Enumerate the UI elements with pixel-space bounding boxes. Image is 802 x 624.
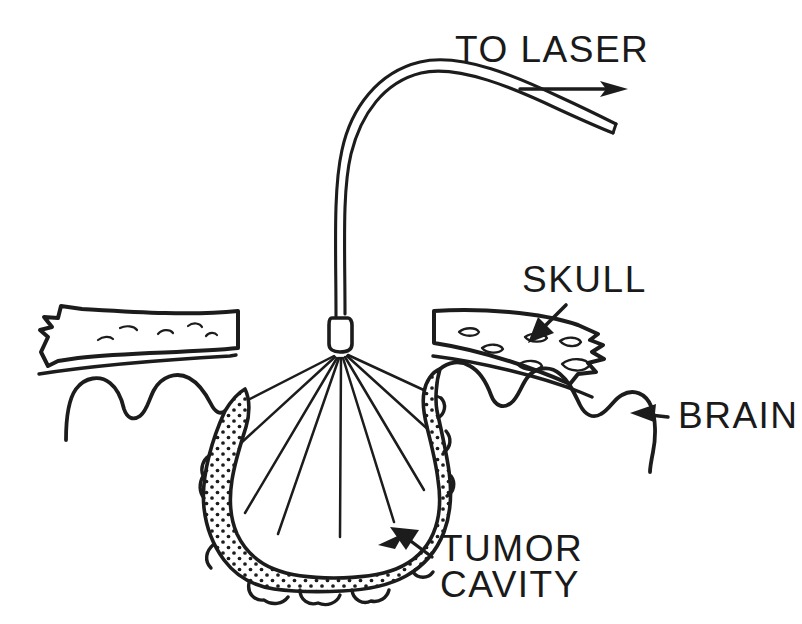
brain-label: BRAIN [678, 395, 799, 436]
to-laser-label: TO LASER [455, 29, 649, 70]
tumor-cavity-label-line1: TUMOR [440, 528, 583, 569]
diagram-svg: TO LASER SKULL BRAIN TUMOR CAVIT [0, 0, 802, 624]
figure-canvas: TO LASER SKULL BRAIN TUMOR CAVIT [0, 0, 802, 624]
skull-label: SKULL [522, 259, 647, 300]
tumor-cavity-label-line2: CAVITY [440, 564, 580, 605]
